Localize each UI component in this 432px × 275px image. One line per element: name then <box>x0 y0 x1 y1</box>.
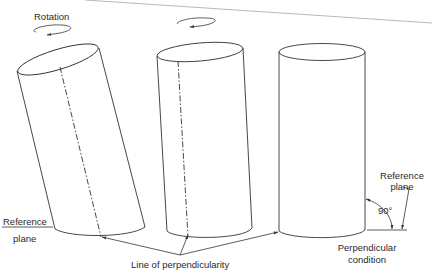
slightly-tilted-cylinder <box>156 39 252 237</box>
perpendicular-condition-label-line2: condition <box>332 254 402 265</box>
line-of-perpendicularity-label: Line of perpendicularity <box>131 259 229 270</box>
tilted-cylinder <box>15 38 145 237</box>
left-reference-plane-label-line1: Reference <box>3 216 47 227</box>
upright-cylinder <box>279 44 365 238</box>
rotation-arrow-icon-2 <box>177 18 215 27</box>
rotation-label: Rotation <box>34 11 69 22</box>
dashed-perpendicular-line-1 <box>60 67 101 237</box>
perpendicularity-leaders <box>102 232 278 255</box>
rotation-arrow-icon-1 <box>34 25 71 35</box>
dashed-perpendicular-line-2 <box>178 61 188 237</box>
right-reference-plane-label-line2: plane <box>377 181 427 192</box>
perpendicular-condition-label-line1: Perpendicular <box>332 242 402 253</box>
left-reference-plane-label-line2: plane <box>13 233 36 244</box>
angle-label: 90° <box>378 205 392 216</box>
right-reference-plane-label-line1: Reference <box>377 170 427 181</box>
top-border-line <box>85 0 432 23</box>
perpendicularity-diagram <box>0 0 432 275</box>
